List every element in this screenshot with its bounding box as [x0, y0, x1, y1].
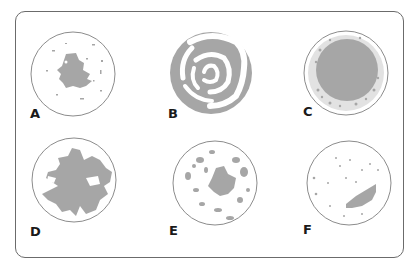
circle-f: [307, 141, 391, 225]
circle-e: [173, 141, 257, 225]
circle-a: [31, 32, 115, 116]
circle-d: [32, 138, 116, 222]
panel-label-d: D: [30, 224, 41, 239]
circle-c: [304, 31, 388, 115]
panel-artwork: [0, 0, 418, 267]
panel-label-c: C: [303, 104, 313, 119]
panel-label-f: F: [303, 222, 312, 237]
circle-b: [170, 32, 252, 114]
panel-label-a: A: [30, 106, 40, 121]
panel-label-e: E: [169, 223, 178, 238]
panel-label-b: B: [168, 106, 178, 121]
